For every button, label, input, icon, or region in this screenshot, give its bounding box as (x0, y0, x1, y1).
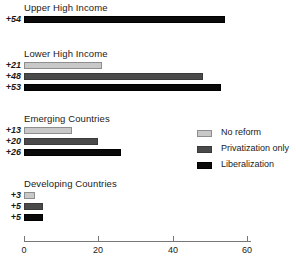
axis-tick-label: 40 (161, 245, 185, 255)
bar (24, 214, 43, 221)
bar (24, 62, 102, 69)
legend-swatch-icon (197, 146, 212, 153)
legend-item[interactable]: Privatization only (197, 142, 296, 158)
axis-tick (24, 236, 25, 241)
bar-chart: Upper High Income+54Lower High Income+21… (0, 0, 296, 256)
bar-value-label: +26 (0, 148, 21, 157)
legend-swatch-icon (197, 162, 212, 169)
bar-value-label: +54 (0, 15, 21, 24)
bar-value-label: +48 (0, 72, 21, 81)
x-axis: 0204060 (0, 234, 296, 256)
bar (24, 138, 98, 145)
bar-row: +5 (0, 213, 296, 222)
bar-value-label: +3 (0, 191, 21, 200)
bar-value-label: +20 (0, 137, 21, 146)
bar-row: +3 (0, 191, 296, 200)
axis-tick-label: 60 (235, 245, 259, 255)
legend-item[interactable]: Liberalization (197, 158, 296, 174)
axis-tick (98, 236, 99, 241)
bar (24, 127, 72, 134)
legend-item[interactable]: No reform (197, 126, 296, 142)
group-title: Upper High Income (24, 2, 108, 13)
bar-group: Upper High Income+54 (0, 2, 296, 26)
axis-tick-label: 20 (86, 245, 110, 255)
bar-value-label: +5 (0, 213, 21, 222)
bar-value-label: +5 (0, 202, 21, 211)
legend-label: Privatization only (221, 143, 289, 154)
bar-row: +5 (0, 202, 296, 211)
group-title: Emerging Countries (24, 113, 110, 124)
bar (24, 149, 121, 156)
bar (24, 16, 225, 23)
chart-legend: No reformPrivatization onlyLiberalizatio… (197, 126, 296, 174)
bar (24, 203, 43, 210)
bar-group: Developing Countries+3+5+5 (0, 178, 296, 224)
bar-row: +54 (0, 15, 296, 24)
bar-row: +21 (0, 61, 296, 70)
bar-row: +48 (0, 72, 296, 81)
group-title: Developing Countries (24, 178, 117, 189)
axis-tick-label: 0 (12, 245, 36, 255)
bar-group: Lower High Income+21+48+53 (0, 48, 296, 94)
bar-value-label: +13 (0, 126, 21, 135)
bar (24, 84, 221, 91)
axis-line (24, 241, 251, 242)
bar-value-label: +21 (0, 61, 21, 70)
legend-swatch-icon (197, 130, 212, 137)
legend-label: Liberalization (221, 159, 274, 170)
axis-tick (173, 236, 174, 241)
legend-label: No reform (221, 127, 261, 138)
group-title: Lower High Income (24, 48, 108, 59)
bar (24, 192, 35, 199)
bar (24, 73, 203, 80)
bar-row: +53 (0, 83, 296, 92)
bar-value-label: +53 (0, 83, 21, 92)
axis-tick (247, 236, 248, 241)
